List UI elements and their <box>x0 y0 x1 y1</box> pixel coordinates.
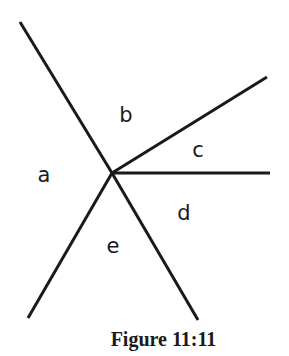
rays-group <box>20 22 270 320</box>
region-label-e: e <box>107 234 120 258</box>
region-label-c: c <box>192 138 204 162</box>
ray-upper-right <box>112 77 267 173</box>
region-labels-group: a b c d e <box>38 103 204 258</box>
ray-lower-left <box>28 173 112 318</box>
ray-upper-left <box>20 22 112 173</box>
region-label-d: d <box>177 201 190 225</box>
region-label-b: b <box>119 103 132 127</box>
ray-lower-right <box>112 173 198 320</box>
figure-caption: Figure 11:11 <box>0 328 289 351</box>
angle-diagram: a b c d e <box>0 0 289 356</box>
region-label-a: a <box>38 163 51 187</box>
